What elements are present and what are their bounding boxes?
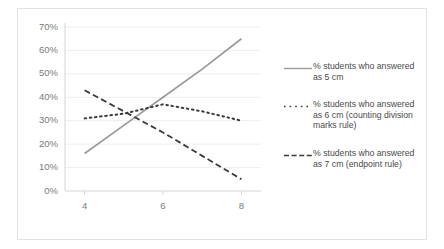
y-axis-tick-label: 40% <box>24 91 58 102</box>
series-line <box>85 39 242 154</box>
legend-item-label: % students who answered as 6 cm (countin… <box>313 99 425 131</box>
y-axis-tick-label: 0% <box>24 185 58 196</box>
x-axis-tick-label: 6 <box>151 200 175 211</box>
y-axis-tick-label: 20% <box>24 138 58 149</box>
y-axis-tick-label: 60% <box>24 44 58 55</box>
chart-legend: % students who answered as 5 cm % studen… <box>283 61 425 186</box>
chart-frame: 0%10%20%30%40%50%60%70% 468 % students w… <box>17 8 427 240</box>
y-axis-tick-label: 50% <box>24 67 58 78</box>
series-line <box>85 104 242 120</box>
dashed-line-key <box>283 150 313 161</box>
legend-item: % students who answered as 5 cm <box>283 61 425 82</box>
x-axis-tick-label: 8 <box>229 200 253 211</box>
y-axis-tick-label: 10% <box>24 161 58 172</box>
legend-item-label: % students who answered as 5 cm <box>313 61 425 82</box>
legend-item: % students who answered as 7 cm (endpoin… <box>283 148 425 169</box>
solid-line-key <box>283 63 313 74</box>
legend-item: % students who answered as 6 cm (countin… <box>283 99 425 131</box>
x-axis-tick-label: 4 <box>73 200 97 211</box>
plot-area: 0%10%20%30%40%50%60%70% 468 <box>18 9 278 239</box>
y-axis-tick-label: 70% <box>24 21 58 32</box>
y-axis-tick-label: 30% <box>24 114 58 125</box>
legend-item-label: % students who answered as 7 cm (endpoin… <box>313 148 425 169</box>
dotted-line-key <box>283 101 313 112</box>
